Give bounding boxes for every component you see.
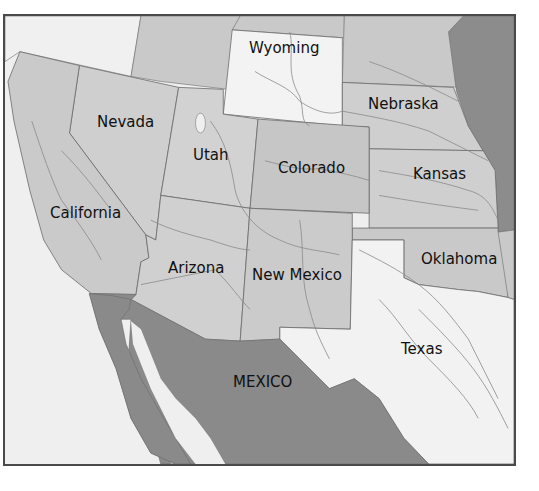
label-nevada: Nevada (97, 115, 154, 130)
label-california: California (50, 206, 121, 221)
label-texas: Texas (401, 342, 442, 357)
label-utah: Utah (193, 148, 229, 163)
label-new-mexico: New Mexico (252, 268, 342, 283)
region-south-dakota (342, 16, 463, 87)
region-idaho-montana (131, 16, 240, 89)
label-wyoming: Wyoming (249, 41, 319, 56)
label-mexico: MEXICO (233, 375, 292, 390)
label-kansas: Kansas (413, 167, 466, 182)
label-colorado: Colorado (278, 161, 345, 176)
label-nebraska: Nebraska (368, 97, 439, 112)
great-salt-lake (196, 113, 206, 133)
region-kansas (369, 149, 498, 228)
map-canvas (5, 16, 514, 464)
map-frame: Wyoming Nebraska Nevada Utah Colorado Ka… (3, 14, 516, 466)
label-arizona: Arizona (168, 261, 224, 276)
label-oklahoma: Oklahoma (421, 252, 497, 267)
